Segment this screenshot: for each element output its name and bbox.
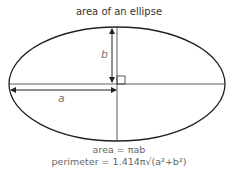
right-angle-marker [117, 76, 125, 84]
perimeter-formula: perimeter = 1.414π√(a²+b²) [0, 156, 238, 167]
label-b: b [101, 48, 108, 61]
area-formula: area = πab [0, 144, 238, 155]
label-a: a [58, 92, 65, 105]
